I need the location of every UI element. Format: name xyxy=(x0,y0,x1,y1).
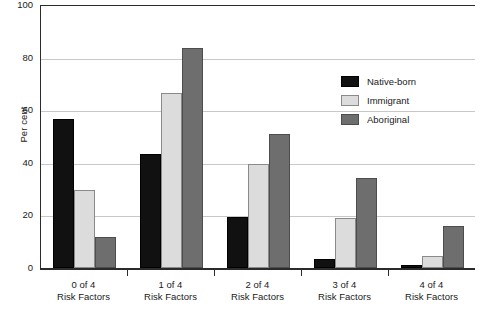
legend-label: Native-born xyxy=(367,76,416,87)
y-tick-label: 60 xyxy=(7,105,33,115)
legend-swatch-icon xyxy=(341,95,359,106)
x-group-label-line1: 3 of 4 xyxy=(333,279,357,290)
x-group-label: 2 of 4Risk Factors xyxy=(214,279,301,303)
legend-item: Aboriginal xyxy=(341,110,416,129)
x-group-label-line1: 1 of 4 xyxy=(159,279,183,290)
x-group-label-line2: Risk Factors xyxy=(301,291,388,303)
y-tick-label: 0 xyxy=(7,263,33,273)
bar-immigrant-group-4 xyxy=(422,256,443,268)
bar-native-born-group-2 xyxy=(227,217,248,268)
y-tick-label: 80 xyxy=(7,53,33,63)
bar-immigrant-group-1 xyxy=(161,93,182,268)
bars-layer xyxy=(41,6,475,268)
legend: Native-bornImmigrantAboriginal xyxy=(341,72,416,129)
bar-aboriginal-group-2 xyxy=(269,134,290,268)
x-tick xyxy=(388,269,389,276)
bar-native-born-group-0 xyxy=(53,119,74,268)
y-tick-label: 100 xyxy=(7,0,33,10)
x-group-label-line1: 2 of 4 xyxy=(246,279,270,290)
x-group-label-line2: Risk Factors xyxy=(40,291,127,303)
x-group-label: 4 of 4Risk Factors xyxy=(388,279,475,303)
bar-chart: Per cent 020406080100 0 of 4Risk Factors… xyxy=(0,0,480,312)
x-tick xyxy=(127,269,128,276)
legend-label: Immigrant xyxy=(367,95,409,106)
y-tick-label: 20 xyxy=(7,210,33,220)
x-group-label-line1: 4 of 4 xyxy=(420,279,444,290)
x-group-label-line1: 0 of 4 xyxy=(72,279,96,290)
legend-label: Aboriginal xyxy=(367,114,409,125)
legend-swatch-icon xyxy=(341,76,359,87)
bar-native-born-group-3 xyxy=(314,259,335,268)
bar-aboriginal-group-0 xyxy=(95,237,116,268)
bar-aboriginal-group-3 xyxy=(356,178,377,268)
bar-immigrant-group-0 xyxy=(74,190,95,268)
plot-area xyxy=(40,5,475,268)
x-axis-line xyxy=(40,268,475,270)
y-tick-label: 40 xyxy=(7,158,33,168)
x-tick xyxy=(301,269,302,276)
bar-native-born-group-1 xyxy=(140,154,161,268)
bar-immigrant-group-2 xyxy=(248,164,269,268)
x-group-label: 3 of 4Risk Factors xyxy=(301,279,388,303)
bar-aboriginal-group-1 xyxy=(182,48,203,268)
legend-item: Immigrant xyxy=(341,91,416,110)
bar-aboriginal-group-4 xyxy=(443,226,464,268)
x-group-label: 0 of 4Risk Factors xyxy=(40,279,127,303)
legend-swatch-icon xyxy=(341,114,359,125)
x-tick xyxy=(214,269,215,276)
x-group-label-line2: Risk Factors xyxy=(388,291,475,303)
x-group-label-line2: Risk Factors xyxy=(127,291,214,303)
y-axis-tick-labels: 020406080100 xyxy=(7,0,33,312)
legend-item: Native-born xyxy=(341,72,416,91)
bar-immigrant-group-3 xyxy=(335,218,356,268)
x-group-label-line2: Risk Factors xyxy=(214,291,301,303)
x-group-label: 1 of 4Risk Factors xyxy=(127,279,214,303)
